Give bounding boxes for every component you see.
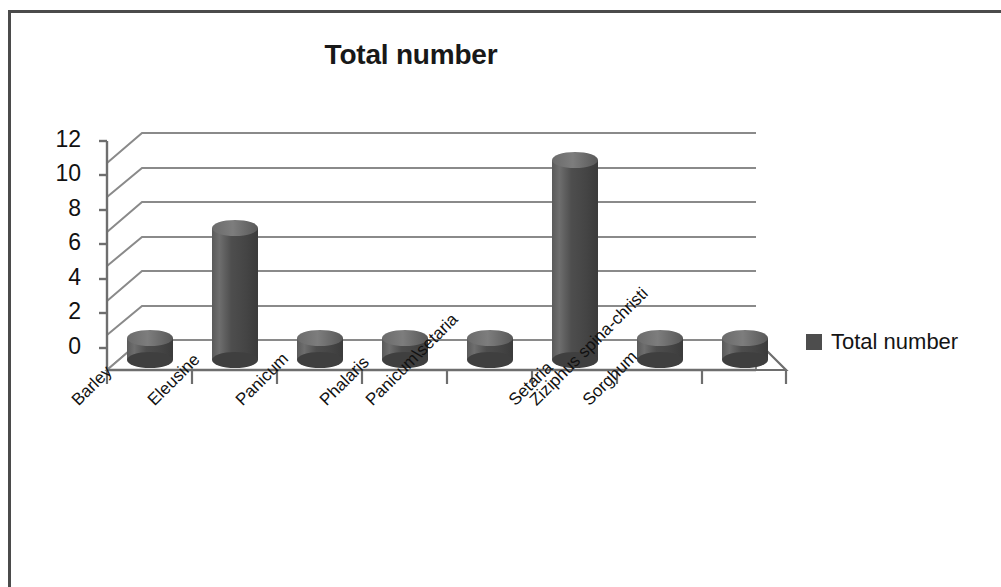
chart-figure: Total number: [11, 13, 1001, 587]
legend-swatch-icon: [806, 334, 822, 350]
y-tick-label-6: 6: [37, 229, 81, 256]
scanned-page: Total number: [0, 0, 1001, 587]
bar-panicum: [297, 330, 343, 368]
gridline-9: [107, 202, 756, 232]
bar-ziziphus-spina-christi: [722, 330, 768, 368]
gridline-7: [107, 237, 756, 266]
y-tick-label-12: 12: [37, 126, 81, 153]
plot-canvas: [11, 13, 1001, 587]
gridline-11: [107, 168, 756, 197]
x-tick-marks: [107, 370, 786, 384]
y-tick-label-8: 8: [37, 195, 81, 222]
legend-entry-label: Total number: [831, 329, 958, 355]
bar-sorghum: [637, 330, 683, 368]
gridline-5: [107, 271, 756, 301]
bar-eleusine: [212, 220, 258, 368]
y-tick-label-4: 4: [37, 264, 81, 291]
chart-legend: Total number: [806, 329, 958, 355]
y-tick-label-0: 0: [37, 333, 81, 360]
gridline-13: [107, 133, 756, 163]
y-tick-label-10: 10: [37, 160, 81, 187]
bar-barley: [127, 330, 173, 368]
bar-panicum-setaria: [467, 330, 513, 368]
y-tick-label-2: 2: [37, 298, 81, 325]
